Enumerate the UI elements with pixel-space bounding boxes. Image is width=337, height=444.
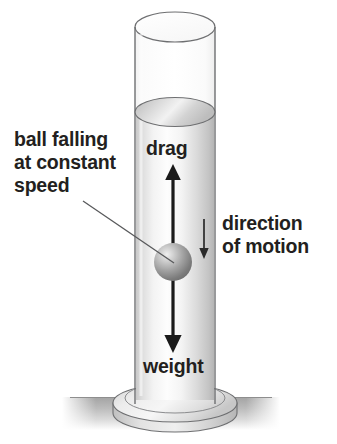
label-ball-falling: ball falling at constant speed <box>14 128 116 197</box>
fluid-surface-ellipse <box>135 98 215 127</box>
physics-diagram: ball falling at constant speed drag dire… <box>0 0 337 444</box>
label-drag: drag <box>146 137 187 160</box>
label-direction-of-motion: direction of motion <box>222 212 309 258</box>
label-weight: weight <box>143 355 204 378</box>
